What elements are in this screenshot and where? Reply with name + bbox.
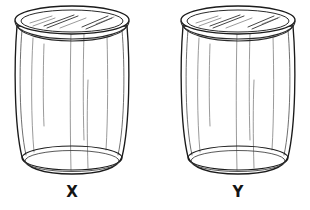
jar-y-label: Y: [232, 183, 245, 201]
jar-x-group: X: [15, 6, 129, 201]
jar-x-label: X: [66, 183, 78, 201]
jar-y-group: Y: [181, 6, 295, 201]
two-jars-illustration: X Y: [0, 0, 310, 210]
figure-container: X Y: [0, 0, 310, 210]
